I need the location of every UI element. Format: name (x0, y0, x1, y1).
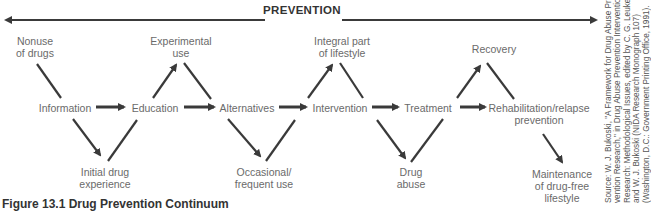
node-maintenance: Maintenanceof drug-freelifestyle (532, 168, 592, 204)
node-information: Information (39, 102, 92, 114)
source-citation: Source: W. J. Bukoski, "A Framework for … (604, 0, 651, 203)
node-occasional-use: Occasional/frequent use (235, 166, 293, 190)
node-initial-drug-experience: Initial drugexperience (79, 166, 130, 190)
figure-caption: Figure 13.1 Drug Prevention Continuum (2, 197, 229, 211)
node-intervention: Intervention (313, 102, 368, 114)
node-treatment: Treatment (404, 102, 451, 114)
node-education: Education (132, 102, 179, 114)
prevention-title: PREVENTION (263, 4, 341, 16)
node-alternatives: Alternatives (220, 102, 275, 114)
node-nonuse: Nonuseof drugs (16, 35, 54, 59)
node-recovery: Recovery (472, 43, 516, 55)
node-drug-abuse: Drugabuse (397, 166, 426, 190)
node-experimental-use: Experimentaluse (150, 35, 211, 59)
node-integral-part: Integral partof lifestyle (314, 35, 370, 59)
node-rehabilitation: Rehabilitation/relapseprevention (489, 102, 590, 126)
